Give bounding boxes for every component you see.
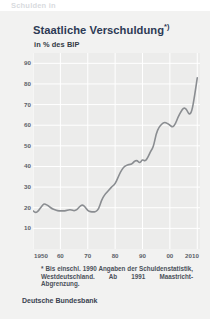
x-axis-tick: 80: [112, 252, 119, 259]
chart-subtitle: in % des BIP: [34, 40, 80, 49]
chart-page: Schulden in Staatliche Verschuldung*) in…: [0, 0, 210, 319]
top-cutoff-text: Schulden in: [0, 0, 210, 11]
x-axis-tick: 90: [139, 252, 146, 259]
x-axis-tick: 2010: [185, 252, 199, 259]
y-axis-tick: 10: [24, 225, 31, 231]
y-axis-tick: 70: [24, 102, 31, 108]
x-axis-tick: 70: [84, 252, 91, 259]
x-axis-labels: 195060708090002010: [33, 252, 200, 264]
x-axis-tick: 00: [166, 252, 173, 259]
y-axis-tick: 30: [24, 184, 31, 190]
y-axis-tick: 60: [24, 122, 31, 128]
chart-source: Deutsche Bundesbank: [22, 297, 97, 304]
y-axis-labels: 908070605040302010: [14, 53, 33, 249]
chart-title: Staatliche Verschuldung*): [33, 22, 170, 36]
y-axis-tick: 90: [24, 60, 31, 66]
x-axis-tick: 60: [57, 252, 64, 259]
y-axis-tick: 50: [24, 143, 31, 149]
y-axis-tick: 40: [24, 163, 31, 169]
plot-area: [33, 53, 200, 249]
x-axis-tick: 1950: [34, 252, 48, 259]
y-axis-tick: 80: [24, 81, 31, 87]
chart-panel: Staatliche Verschuldung*) in % des BIP 9…: [0, 11, 210, 319]
chart-footnote: * Bis einschl. 1990 Angaben der Schulden…: [41, 265, 193, 288]
chart-title-footnote-marker: *): [164, 22, 170, 31]
debt-ratio-line: [33, 53, 200, 249]
y-axis-tick: 20: [24, 205, 31, 211]
chart-title-text: Staatliche Verschuldung: [33, 24, 164, 36]
